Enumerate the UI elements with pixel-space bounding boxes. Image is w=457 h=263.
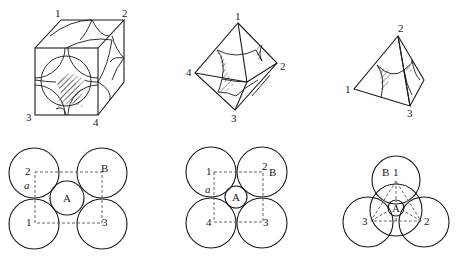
cube-vertex-2: 2 — [122, 7, 128, 19]
label-B: B — [269, 166, 276, 178]
tetrahedron-vertex-3: 3 — [407, 107, 413, 119]
label-3: 3 — [362, 215, 368, 227]
label-1: 1 — [206, 165, 212, 177]
tetrahedron-vertex-2: 2 — [398, 22, 404, 34]
tetrahedron-figure: 2 1 3 — [345, 22, 424, 119]
octahedron-vertex-2: 2 — [280, 60, 286, 72]
square-layer-left: A 2 a 1 3 B — [9, 148, 127, 249]
label-a-length: a — [205, 183, 211, 195]
label-B: B — [382, 166, 389, 178]
label-B: B — [101, 162, 108, 174]
cube-figure: 1 2 3 4 — [5, 7, 128, 145]
octahedron-vertex-4: 4 — [186, 66, 192, 78]
crystal-void-diagram: 1 2 3 4 1 2 3 4 — [0, 0, 457, 263]
label-A: A — [63, 192, 71, 204]
label-4: 4 — [206, 216, 212, 228]
label-3: 3 — [263, 216, 269, 228]
octahedron-figure: 1 2 3 4 — [186, 10, 286, 124]
square-layer-middle: A 1 a 4 3 2 B — [186, 147, 287, 248]
tetrahedron-vertex-1: 1 — [345, 83, 351, 95]
label-2: 2 — [25, 165, 31, 177]
label-A: A — [392, 202, 400, 214]
octahedron-outline — [195, 23, 277, 110]
label-1: 1 — [393, 166, 399, 178]
octahedron-vertex-1: 1 — [235, 10, 241, 22]
label-1: 1 — [26, 216, 32, 228]
label-2: 2 — [424, 215, 430, 227]
octahedron-vertex-3: 3 — [231, 112, 237, 124]
cube-vertex-1: 1 — [55, 7, 61, 19]
label-3: 3 — [102, 216, 108, 228]
cube-vertex-4: 4 — [93, 116, 99, 128]
label-2: 2 — [262, 160, 268, 172]
cube-top-face — [35, 20, 124, 48]
cube-vertex-3: 3 — [26, 111, 32, 123]
triangle-layer-right: A B 1 3 2 — [343, 156, 449, 247]
label-A: A — [232, 191, 240, 203]
label-a-length: a — [24, 179, 30, 191]
